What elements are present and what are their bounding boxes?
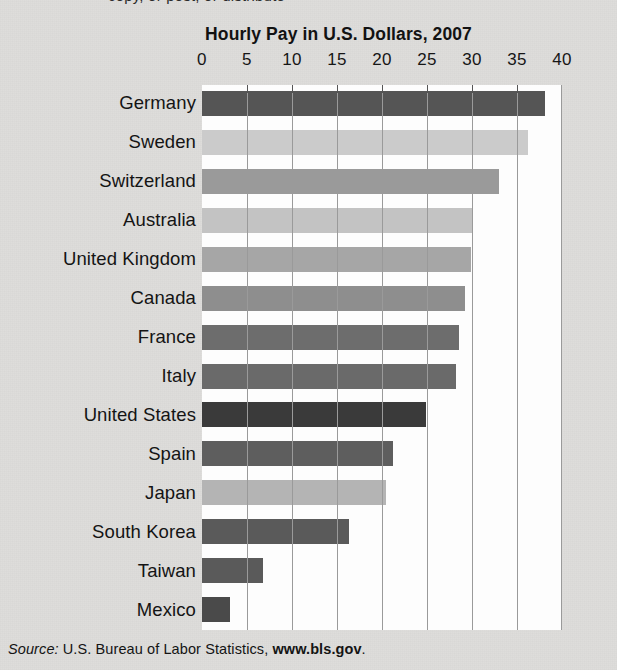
x-tick-label-5: 5 <box>242 50 252 70</box>
cut-off-text: copy, or post, or distribute <box>108 0 285 4</box>
x-tick-label-40: 40 <box>552 50 572 70</box>
gridline-30 <box>472 85 473 630</box>
x-axis-tick-labels: 0510152025303540 <box>0 50 617 76</box>
category-label-switzerland: Switzerland <box>0 170 196 192</box>
tickmark-20 <box>382 85 383 93</box>
x-tick-label-20: 20 <box>372 50 392 70</box>
bar-france <box>202 325 459 350</box>
x-tick-label-10: 10 <box>282 50 302 70</box>
x-tick-label-15: 15 <box>327 50 347 70</box>
tickmark-10 <box>292 85 293 93</box>
bar-south-korea <box>202 519 349 544</box>
bar-canada <box>202 286 465 311</box>
category-label-germany: Germany <box>0 92 196 114</box>
source-note: Source: U.S. Bureau of Labor Statistics,… <box>8 641 366 657</box>
bar-taiwan <box>202 558 263 583</box>
gridline-35 <box>517 85 518 630</box>
category-label-taiwan: Taiwan <box>0 560 196 582</box>
category-label-australia: Australia <box>0 209 196 231</box>
tickmark-30 <box>472 85 473 93</box>
source-body: U.S. Bureau of Labor Statistics, <box>59 641 273 657</box>
x-tick-label-25: 25 <box>417 50 437 70</box>
source-url[interactable]: www.bls.gov <box>272 641 361 657</box>
gridline-20 <box>382 85 383 630</box>
category-label-japan: Japan <box>0 482 196 504</box>
tickmark-15 <box>337 85 338 93</box>
bar-sweden <box>202 130 528 155</box>
category-label-united-states: United States <box>0 404 196 426</box>
bar-italy <box>202 364 456 389</box>
page-background: copy, or post, or distribute Hourly Pay … <box>0 0 617 670</box>
category-label-spain: Spain <box>0 443 196 465</box>
source-label: Source: <box>8 641 59 657</box>
gridline-25 <box>427 85 428 630</box>
category-label-mexico: Mexico <box>0 599 196 621</box>
chart-title: Hourly Pay in U.S. Dollars, 2007 <box>0 24 617 45</box>
bar-japan <box>202 480 386 505</box>
plot-right-border <box>561 85 562 630</box>
bar-mexico <box>202 597 230 622</box>
x-tick-label-35: 35 <box>507 50 527 70</box>
source-period: . <box>362 641 366 657</box>
tickmark-25 <box>427 85 428 93</box>
x-tick-label-0: 0 <box>197 50 207 70</box>
gridline-15 <box>337 85 338 630</box>
tickmark-35 <box>517 85 518 93</box>
x-tick-label-30: 30 <box>462 50 482 70</box>
plot-area <box>202 85 562 630</box>
category-label-south-korea: South Korea <box>0 521 196 543</box>
category-label-united-kingdom: United Kingdom <box>0 248 196 270</box>
chart-title-text: Hourly Pay in U.S. Dollars, 2007 <box>205 24 472 44</box>
category-label-canada: Canada <box>0 287 196 309</box>
category-labels: GermanySwedenSwitzerlandAustraliaUnited … <box>0 85 196 630</box>
category-label-italy: Italy <box>0 365 196 387</box>
bar-united-states <box>202 402 426 427</box>
gridline-10 <box>292 85 293 630</box>
bar-spain <box>202 441 393 466</box>
category-label-france: France <box>0 326 196 348</box>
category-label-sweden: Sweden <box>0 131 196 153</box>
tickmark-5 <box>247 85 248 93</box>
bar-germany <box>202 91 545 116</box>
gridline-5 <box>247 85 248 630</box>
cut-off-text-line: copy, or post, or distribute <box>0 0 617 14</box>
